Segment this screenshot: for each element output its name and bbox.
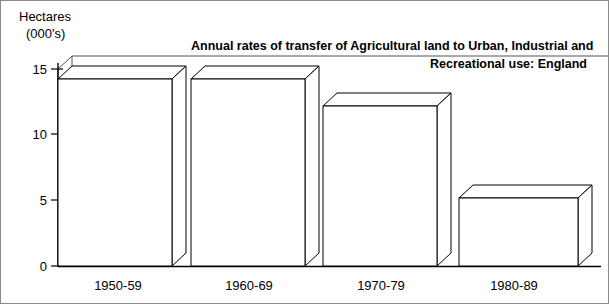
bar-1970-79[interactable] [323, 93, 451, 266]
chart-page: Hectares (000's) Annual rates of transfe… [0, 0, 609, 304]
chart-plot-area [1, 1, 608, 303]
bar-1950-59[interactable] [58, 66, 186, 266]
bar-1960-69[interactable] [191, 66, 319, 266]
bar-1980-89[interactable] [459, 185, 592, 266]
